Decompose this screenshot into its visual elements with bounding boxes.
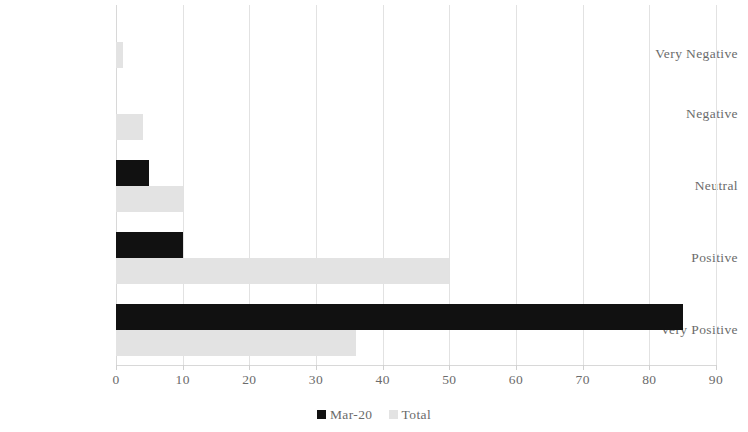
x-tick-label-50: 50 xyxy=(429,371,469,388)
x-tick-70 xyxy=(583,365,584,370)
bar[interactable] xyxy=(116,186,183,212)
bar[interactable] xyxy=(116,232,183,258)
bar[interactable] xyxy=(116,304,683,330)
x-tick-label-0: 0 xyxy=(96,371,136,388)
x-axis-line xyxy=(116,365,716,366)
x-tick-0 xyxy=(116,365,117,370)
x-tick-20 xyxy=(249,365,250,370)
x-tick-label-10: 10 xyxy=(163,371,203,388)
legend-item-total[interactable]: Total xyxy=(389,406,432,423)
gridline-90 xyxy=(716,5,717,365)
x-tick-10 xyxy=(183,365,184,370)
legend-swatch-icon-total xyxy=(389,410,398,419)
bar-group xyxy=(116,221,716,293)
legend: Mar-20 Total xyxy=(0,406,748,423)
x-tick-60 xyxy=(516,365,517,370)
x-tick-label-30: 30 xyxy=(296,371,336,388)
bar-group xyxy=(116,149,716,221)
bar[interactable] xyxy=(116,114,143,140)
bar[interactable] xyxy=(116,330,356,356)
x-tick-label-40: 40 xyxy=(363,371,403,388)
legend-label-total: Total xyxy=(402,406,432,423)
bar-group xyxy=(116,293,716,365)
x-tick-50 xyxy=(449,365,450,370)
bar-group xyxy=(116,77,716,149)
x-tick-label-20: 20 xyxy=(229,371,269,388)
bar[interactable] xyxy=(116,258,449,284)
x-tick-80 xyxy=(649,365,650,370)
legend-swatch-icon-mar-20 xyxy=(317,410,326,419)
x-tick-label-80: 80 xyxy=(629,371,669,388)
x-tick-40 xyxy=(383,365,384,370)
bar-chart: Very Negative Negative Neutral Positive … xyxy=(0,0,748,432)
x-tick-label-90: 90 xyxy=(696,371,736,388)
bar-group xyxy=(116,5,716,77)
x-tick-30 xyxy=(316,365,317,370)
bar[interactable] xyxy=(116,160,149,186)
bar[interactable] xyxy=(116,42,123,68)
plot-area xyxy=(116,5,716,365)
x-tick-label-60: 60 xyxy=(496,371,536,388)
legend-label-mar-20: Mar-20 xyxy=(330,406,373,423)
legend-item-mar-20[interactable]: Mar-20 xyxy=(317,406,373,423)
x-tick-90 xyxy=(716,365,717,370)
x-tick-label-70: 70 xyxy=(563,371,603,388)
